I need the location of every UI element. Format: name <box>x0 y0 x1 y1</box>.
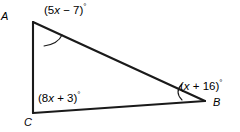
vertex-label-c: C <box>24 117 32 128</box>
angle-b-operator: + 16) <box>190 80 220 92</box>
angle-a-prefix: (5 <box>44 4 54 16</box>
angle-c-degree-symbol: ° <box>77 90 80 99</box>
angle-a-operator: − 7) <box>60 4 83 16</box>
angle-c-prefix: (8 <box>38 92 48 104</box>
angle-a-degree-symbol: ° <box>83 2 86 11</box>
angle-label-c: (8x + 3)° <box>38 91 81 104</box>
angle-label-a: (5x − 7)° <box>44 3 87 16</box>
vertex-label-b: B <box>213 97 220 108</box>
angle-label-b: (x + 16)° <box>180 79 223 92</box>
angle-arc-a <box>44 35 62 46</box>
angle-c-operator: + 3) <box>54 92 77 104</box>
angle-b-degree-symbol: ° <box>219 78 222 87</box>
vertex-label-a: A <box>1 11 8 22</box>
triangle-diagram: A B C (5x − 7)° (x + 16)° (8x + 3)° <box>0 0 240 132</box>
triangle-svg <box>0 0 240 132</box>
